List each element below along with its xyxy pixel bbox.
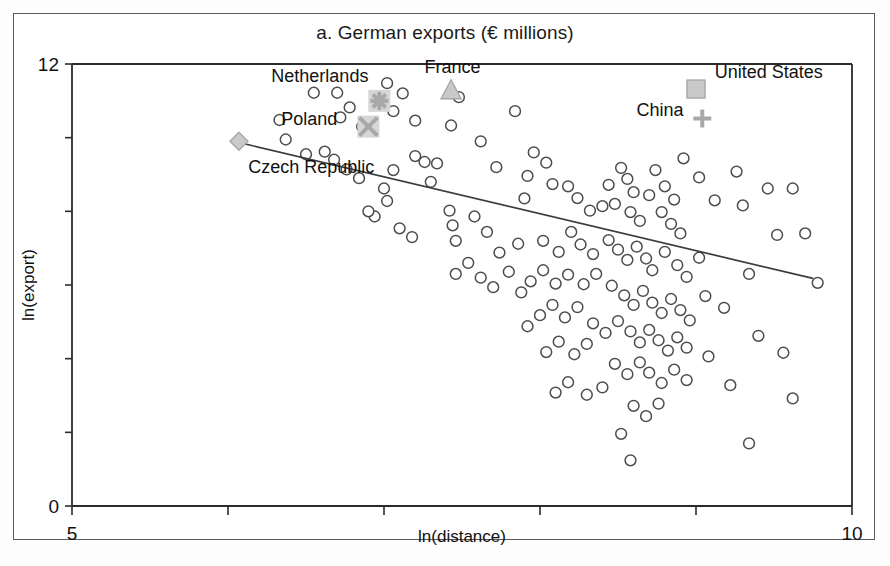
data-point[interactable] bbox=[787, 183, 798, 194]
data-point[interactable] bbox=[547, 299, 558, 310]
data-point[interactable] bbox=[522, 321, 533, 332]
data-point[interactable] bbox=[450, 235, 461, 246]
data-point[interactable] bbox=[647, 297, 658, 308]
data-point[interactable] bbox=[672, 260, 683, 271]
data-point[interactable] bbox=[419, 157, 430, 168]
data-point[interactable] bbox=[619, 290, 630, 301]
data-point[interactable] bbox=[675, 305, 686, 316]
data-point[interactable] bbox=[581, 389, 592, 400]
data-point[interactable] bbox=[332, 87, 343, 98]
data-point[interactable] bbox=[669, 194, 680, 205]
data-point[interactable] bbox=[656, 308, 667, 319]
data-point[interactable] bbox=[572, 302, 583, 313]
data-point[interactable] bbox=[597, 382, 608, 393]
data-point[interactable] bbox=[634, 357, 645, 368]
data-point[interactable] bbox=[581, 339, 592, 350]
data-point[interactable] bbox=[762, 183, 773, 194]
data-point[interactable] bbox=[538, 235, 549, 246]
data-point[interactable] bbox=[772, 230, 783, 241]
data-point[interactable] bbox=[603, 235, 614, 246]
data-point[interactable] bbox=[659, 181, 670, 192]
data-point[interactable] bbox=[603, 179, 614, 190]
data-point[interactable] bbox=[653, 398, 664, 409]
data-point[interactable] bbox=[669, 364, 680, 375]
data-point[interactable] bbox=[308, 87, 319, 98]
data-point[interactable] bbox=[647, 265, 658, 276]
data-point[interactable] bbox=[382, 196, 393, 207]
data-point[interactable] bbox=[591, 269, 602, 280]
data-point[interactable] bbox=[578, 279, 589, 290]
data-point[interactable] bbox=[475, 136, 486, 147]
data-point[interactable] bbox=[553, 246, 564, 257]
data-point[interactable] bbox=[588, 249, 599, 260]
data-point[interactable] bbox=[622, 255, 633, 266]
data-point[interactable] bbox=[606, 280, 617, 291]
data-point[interactable] bbox=[563, 377, 574, 388]
data-point[interactable] bbox=[425, 176, 436, 187]
data-point[interactable] bbox=[656, 207, 667, 218]
data-point[interactable] bbox=[541, 157, 552, 168]
data-point[interactable] bbox=[666, 294, 677, 305]
data-point[interactable] bbox=[388, 165, 399, 176]
data-point[interactable] bbox=[656, 378, 667, 389]
data-point[interactable] bbox=[525, 276, 536, 287]
data-point[interactable] bbox=[397, 88, 408, 99]
data-point[interactable] bbox=[600, 327, 611, 338]
data-point[interactable] bbox=[800, 228, 811, 239]
data-point[interactable] bbox=[709, 195, 720, 206]
data-point[interactable] bbox=[522, 171, 533, 182]
data-point[interactable] bbox=[631, 241, 642, 252]
data-point[interactable] bbox=[510, 106, 521, 117]
data-point[interactable] bbox=[444, 205, 455, 216]
data-point[interactable] bbox=[469, 211, 480, 222]
data-point[interactable] bbox=[407, 232, 418, 243]
data-point[interactable] bbox=[644, 325, 655, 336]
data-point[interactable] bbox=[535, 310, 546, 321]
data-point[interactable] bbox=[541, 347, 552, 358]
data-point[interactable] bbox=[560, 312, 571, 323]
data-point[interactable] bbox=[672, 332, 683, 343]
data-point[interactable] bbox=[628, 400, 639, 411]
data-point[interactable] bbox=[644, 190, 655, 201]
data-point[interactable] bbox=[563, 181, 574, 192]
data-point[interactable] bbox=[700, 291, 711, 302]
data-point[interactable] bbox=[344, 102, 355, 113]
data-point[interactable] bbox=[663, 345, 674, 356]
data-point[interactable] bbox=[446, 120, 457, 131]
data-point[interactable] bbox=[363, 206, 374, 217]
data-point[interactable] bbox=[410, 115, 421, 126]
data-point[interactable] bbox=[694, 252, 705, 263]
data-point[interactable] bbox=[659, 246, 670, 257]
data-point[interactable] bbox=[613, 244, 624, 255]
data-point[interactable] bbox=[488, 282, 499, 293]
data-point[interactable] bbox=[280, 134, 291, 145]
data-point[interactable] bbox=[653, 335, 664, 346]
data-point[interactable] bbox=[650, 165, 661, 176]
data-point[interactable] bbox=[622, 174, 633, 185]
data-point[interactable] bbox=[616, 162, 627, 173]
data-point[interactable] bbox=[681, 271, 692, 282]
marker-diamond-czech-republic[interactable] bbox=[230, 132, 248, 150]
marker-triangle-france[interactable] bbox=[441, 80, 461, 99]
data-point[interactable] bbox=[463, 258, 474, 269]
data-point[interactable] bbox=[703, 351, 714, 362]
data-point[interactable] bbox=[588, 318, 599, 329]
data-point[interactable] bbox=[634, 216, 645, 227]
data-point[interactable] bbox=[572, 193, 583, 204]
data-point[interactable] bbox=[491, 162, 502, 173]
data-point[interactable] bbox=[778, 347, 789, 358]
data-point[interactable] bbox=[622, 369, 633, 380]
data-point[interactable] bbox=[609, 199, 620, 210]
data-point[interactable] bbox=[394, 223, 405, 234]
data-point[interactable] bbox=[566, 227, 577, 238]
data-point[interactable] bbox=[753, 330, 764, 341]
data-point[interactable] bbox=[563, 269, 574, 280]
data-point[interactable] bbox=[681, 342, 692, 353]
data-point[interactable] bbox=[678, 153, 689, 164]
data-point[interactable] bbox=[616, 428, 627, 439]
data-point[interactable] bbox=[628, 187, 639, 198]
data-point[interactable] bbox=[575, 239, 586, 250]
data-point[interactable] bbox=[725, 380, 736, 391]
data-point[interactable] bbox=[482, 227, 493, 238]
data-point[interactable] bbox=[550, 278, 561, 289]
